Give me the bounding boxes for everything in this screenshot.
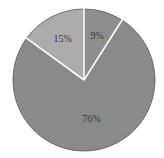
slice-label: 15% bbox=[54, 33, 72, 44]
slice-label: 76% bbox=[82, 113, 100, 124]
pie-chart: 9%76%15% bbox=[0, 0, 164, 158]
slice-label: 9% bbox=[90, 30, 103, 41]
